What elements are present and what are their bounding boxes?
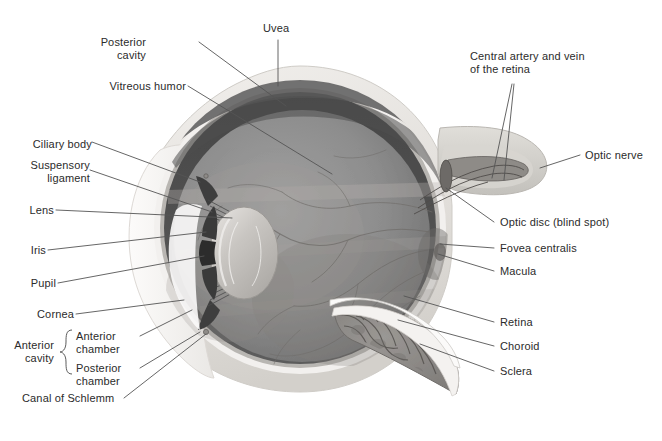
label-choroid: Choroid — [500, 340, 560, 353]
label-vitreous-humor: Vitreous humor — [80, 80, 186, 93]
label-suspensory-ligament: Suspensory ligament — [18, 159, 90, 185]
label-anterior-chamber: Anterior chamber — [76, 330, 142, 356]
optic-disc — [440, 160, 452, 192]
eye-anatomy-figure: Posterior cavity Vitreous humor Ciliary … — [0, 0, 662, 441]
label-lens: Lens — [22, 204, 54, 217]
label-canal-of-schlemm: Canal of Schlemm — [22, 392, 126, 405]
label-ciliary-body: Ciliary body — [20, 138, 92, 151]
label-fovea-centralis: Fovea centralis — [500, 242, 610, 255]
label-optic-disc: Optic disc (blind spot) — [500, 216, 650, 229]
label-anterior-cavity: Anterior cavity — [0, 339, 54, 365]
label-uvea: Uvea — [263, 22, 303, 35]
pupil-aperture — [199, 240, 216, 266]
label-pupil: Pupil — [22, 277, 56, 290]
label-macula: Macula — [500, 265, 560, 278]
label-sclera: Sclera — [500, 365, 554, 378]
label-posterior-chamber: Posterior chamber — [76, 362, 142, 388]
anterior-cavity-brace — [60, 330, 72, 374]
canal-of-schlemm-marker-upper — [204, 174, 208, 178]
label-retina: Retina — [500, 316, 556, 329]
label-posterior-cavity: Posterior cavity — [60, 36, 146, 62]
label-optic-nerve: Optic nerve — [585, 149, 657, 162]
label-iris: Iris — [22, 244, 46, 257]
label-cornea: Cornea — [22, 308, 74, 321]
fovea-centralis-pit — [434, 243, 446, 261]
label-central-artery-and-vein: Central artery and vein of the retina — [470, 50, 610, 76]
